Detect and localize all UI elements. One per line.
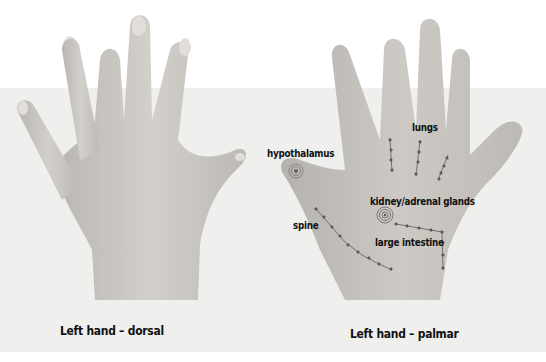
- dorsal-hand: [17, 15, 246, 300]
- caption-palmar: Left hand – palmar: [350, 326, 459, 341]
- dorsal-index-finger: [62, 39, 100, 160]
- caption-dorsal: Left hand – dorsal: [60, 323, 164, 338]
- hands-illustration: [0, 0, 546, 362]
- nail-middle: [132, 16, 146, 36]
- nail-little: [18, 101, 28, 115]
- hypothalamus-point: [289, 164, 303, 178]
- label-kidney-adrenal-glands: kidney/adrenal glands: [370, 196, 475, 207]
- label-hypothalamus: hypothalamus: [267, 148, 334, 159]
- kidney-point: [377, 207, 393, 223]
- label-lungs: lungs: [412, 122, 438, 133]
- nail-ring: [179, 38, 191, 56]
- palmar-hand: [281, 19, 522, 300]
- label-spine: spine: [293, 220, 318, 231]
- palmar-hand-shape: [281, 19, 522, 300]
- label-large-intestine: large intestine: [375, 237, 444, 248]
- nail-thumb: [235, 153, 245, 161]
